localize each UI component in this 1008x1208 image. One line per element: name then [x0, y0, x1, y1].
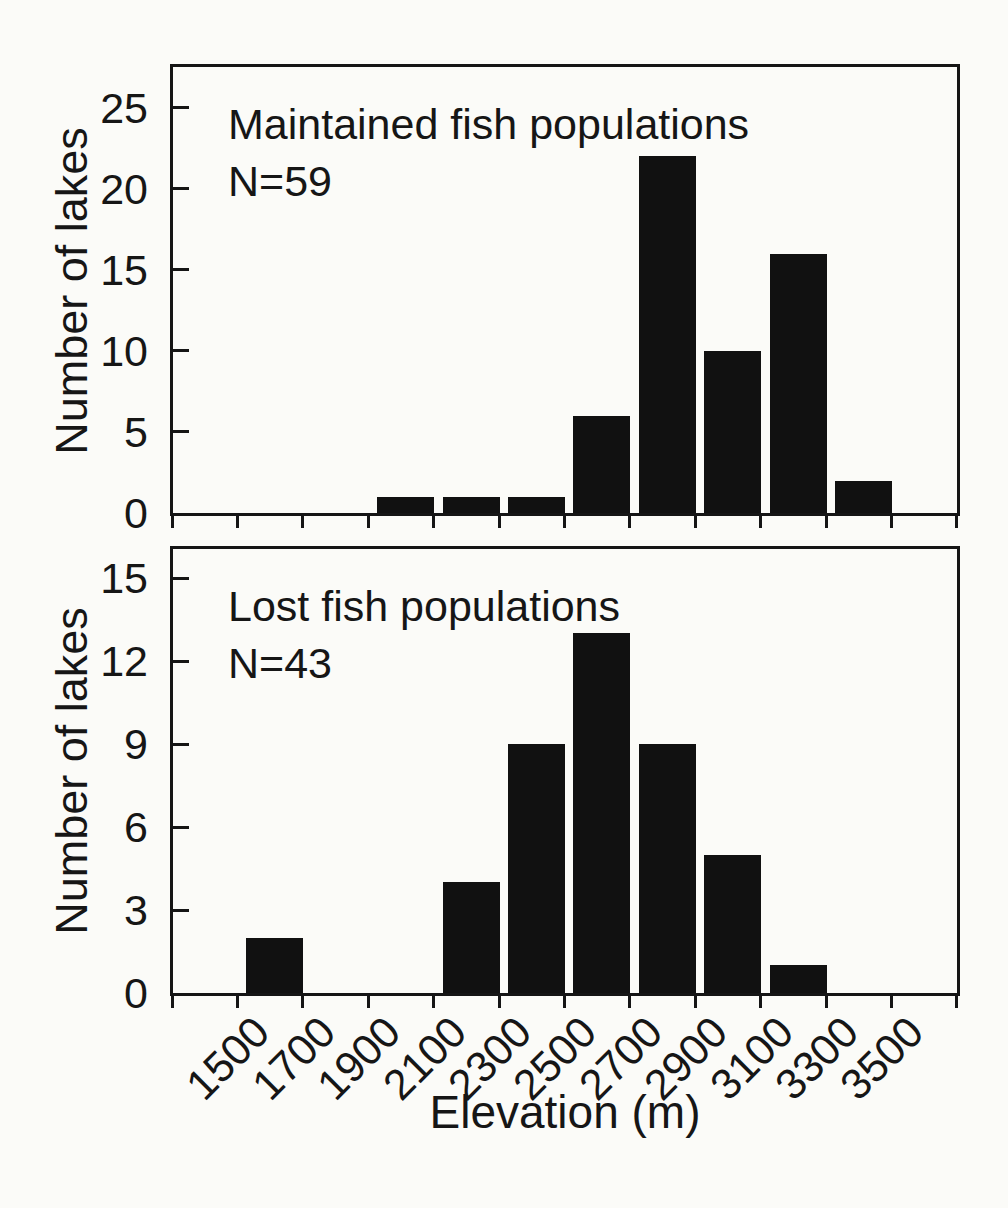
x-tick-mark	[694, 516, 697, 528]
x-tick-mark	[890, 516, 893, 528]
histogram-figure: Number of lakes Number of lakes Maintain…	[0, 0, 1008, 1208]
histogram-bar-2300-2500	[508, 497, 565, 513]
histogram-bar-2300-2500	[508, 744, 565, 993]
y-tick-mark	[173, 577, 189, 580]
x-axis-title: Elevation (m)	[170, 1086, 960, 1138]
annotation-lost: Lost fish populations N=43	[228, 578, 620, 692]
y-tick-label: 6	[48, 803, 148, 851]
x-tick-mark	[825, 516, 828, 528]
x-tick-mark	[171, 996, 174, 1008]
y-tick-label: 5	[48, 408, 148, 456]
x-tick-mark	[890, 996, 893, 1008]
x-tick-mark	[367, 516, 370, 528]
x-tick-mark	[236, 996, 239, 1008]
y-tick-label: 20	[48, 165, 148, 213]
y-tick-mark	[173, 430, 189, 433]
histogram-bar-3300-3500	[835, 481, 892, 513]
x-tick-mark	[694, 996, 697, 1008]
y-tick-label: 12	[48, 637, 148, 685]
histogram-bar-2700-2900	[639, 744, 696, 993]
y-tick-label: 15	[48, 246, 148, 294]
histogram-bar-1500-1700	[246, 938, 303, 993]
annotation-lost-n: N=43	[228, 635, 620, 692]
annotation-maintained-title: Maintained fish populations	[228, 96, 749, 153]
x-tick-mark	[498, 996, 501, 1008]
x-tick-mark	[563, 996, 566, 1008]
histogram-bar-2900-3100	[704, 855, 761, 993]
x-tick-mark	[432, 996, 435, 1008]
x-tick-mark	[301, 516, 304, 528]
histogram-bar-2100-2300	[443, 882, 500, 993]
y-tick-label: 3	[48, 886, 148, 934]
annotation-lost-title: Lost fish populations	[228, 578, 620, 635]
y-tick-label: 9	[48, 720, 148, 768]
y-tick-mark	[173, 187, 189, 190]
y-tick-mark	[173, 826, 189, 829]
x-tick-mark	[628, 516, 631, 528]
x-tick-mark	[171, 516, 174, 528]
histogram-bar-3100-3300	[770, 965, 827, 993]
y-tick-mark	[173, 909, 189, 912]
x-tick-mark	[301, 996, 304, 1008]
y-tick-label: 0	[48, 969, 148, 1017]
y-tick-mark	[173, 106, 189, 109]
x-tick-mark	[367, 996, 370, 1008]
x-tick-mark	[498, 516, 501, 528]
y-tick-mark	[173, 349, 189, 352]
y-tick-mark	[173, 743, 189, 746]
histogram-bar-2500-2700	[573, 416, 630, 513]
x-tick-mark	[825, 996, 828, 1008]
x-tick-mark	[236, 516, 239, 528]
y-tick-mark	[173, 660, 189, 663]
histogram-bar-2900-3100	[704, 351, 761, 513]
y-tick-mark	[173, 268, 189, 271]
y-tick-label: 10	[48, 327, 148, 375]
x-tick-mark	[955, 516, 958, 528]
y-tick-label: 0	[48, 489, 148, 537]
histogram-bar-3100-3300	[770, 254, 827, 513]
x-tick-mark	[432, 516, 435, 528]
histogram-bar-1900-2100	[377, 497, 434, 513]
x-tick-mark	[955, 996, 958, 1008]
histogram-bar-2700-2900	[639, 156, 696, 513]
x-tick-mark	[759, 516, 762, 528]
y-tick-label: 25	[48, 84, 148, 132]
x-tick-mark	[759, 996, 762, 1008]
x-tick-mark	[628, 996, 631, 1008]
y-tick-label: 15	[48, 554, 148, 602]
histogram-bar-2500-2700	[573, 633, 630, 993]
x-tick-mark	[563, 516, 566, 528]
histogram-bar-2100-2300	[443, 497, 500, 513]
